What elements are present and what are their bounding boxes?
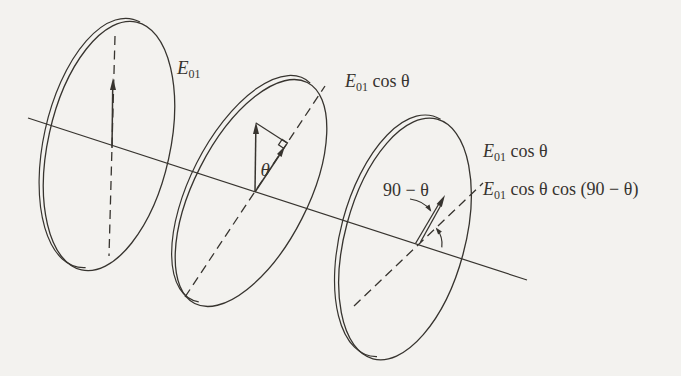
propagation-axis-line [28,118,527,280]
polarizer-diagram: E01 E01 cos θ E01 cos θ E01 cos θ cos (9… [0,0,681,376]
disk2-face [144,57,358,330]
disk2-rim [140,53,310,303]
disk3-angle-arc-arrowhead-icon [436,228,442,235]
disk3-incident-vector-shaft-left [416,205,439,244]
label-e01-cos-theta-disk2: E01 cos θ [344,71,410,94]
disk1-field-vector [112,88,113,148]
label-e01: E01 [176,57,201,81]
label-theta: θ [261,159,270,180]
polarizer-disk-2 [139,53,359,330]
polarizer-disk-3 [310,100,495,374]
disk3-incident-vector-shaft-right [421,206,441,242]
disk3-face [315,104,495,375]
label-e01-cos-theta-disk3: E01 cos θ [482,141,548,164]
disk2-incident-field-vector [255,132,256,192]
disk3-rim [311,100,441,357]
polarizer-disk-1 [17,6,196,283]
label-e01-cos-theta-cos-90-minus-theta: E01 cos θ cos (90 − θ) [482,179,638,202]
disk1-rim [18,6,141,269]
label-90-minus-theta: 90 − θ [383,180,429,200]
disk1-field-arrowhead-icon [110,78,116,90]
